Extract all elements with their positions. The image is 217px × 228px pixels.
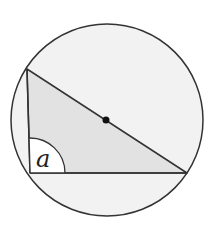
angle-label: a bbox=[36, 145, 50, 173]
circle-triangle-diagram: a bbox=[0, 0, 217, 228]
center-dot bbox=[103, 117, 110, 124]
